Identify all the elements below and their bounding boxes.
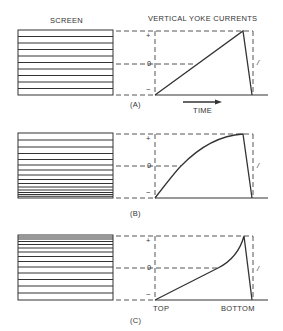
panel-c-screen	[18, 235, 113, 300]
panel-c-guides	[116, 236, 253, 300]
top-label: TOP	[153, 304, 169, 313]
panel-b-label: (B)	[130, 209, 141, 218]
yoke-current-diagram	[0, 0, 283, 331]
panel-c-plus-label: +	[146, 236, 151, 245]
currents-title: VERTICAL YOKE CURRENTS	[148, 14, 257, 23]
screen-title: SCREEN	[50, 16, 83, 25]
panel-a-guides	[116, 31, 253, 95]
panel-b-screen	[18, 133, 113, 198]
panel-b-zero-label: 0	[147, 161, 151, 170]
panel-c-waveform	[155, 236, 252, 300]
panel-b-retrace-label: /	[257, 161, 259, 170]
panel-b-minus-label: −	[146, 188, 151, 197]
panel-a-screen	[18, 30, 113, 95]
time-arrow	[183, 100, 222, 105]
panel-b-plus-label: +	[146, 134, 151, 143]
panel-c-minus-label: −	[146, 290, 151, 299]
panel-a-retrace-label: /	[257, 58, 259, 67]
panel-a-label: (A)	[130, 100, 141, 109]
panel-a-zero-label: 0	[147, 59, 151, 68]
panel-b-waveform	[155, 134, 252, 198]
panel-a-minus-label: −	[146, 85, 151, 94]
panel-a-waveform	[155, 31, 252, 95]
panel-c-zero-label: 0	[147, 263, 151, 272]
time-label: TIME	[193, 106, 212, 115]
panel-a-plus-label: +	[146, 31, 151, 40]
panel-c-label: (C)	[130, 316, 141, 325]
panel-c-retrace-label: /	[257, 264, 259, 273]
panel-b-guides	[116, 134, 253, 198]
bottom-label: BOTTOM	[221, 304, 255, 313]
